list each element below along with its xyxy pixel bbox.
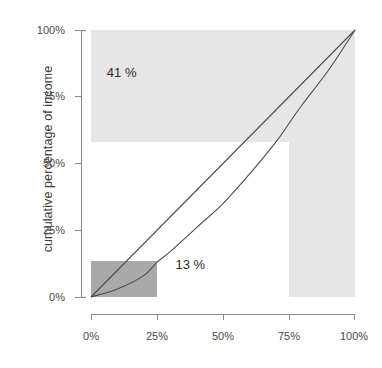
y-tick-50 xyxy=(75,163,81,164)
annotation-13-percent: 13 % xyxy=(175,257,205,272)
figure-title-sliver xyxy=(150,0,260,9)
y-tick-0 xyxy=(75,297,81,298)
x-tick-label-0: 0% xyxy=(61,330,121,342)
x-tick-50 xyxy=(223,314,224,320)
x-tick-100 xyxy=(354,314,355,320)
x-tick-0 xyxy=(91,314,92,320)
y-tick-label-100: 100% xyxy=(5,24,65,36)
y-tick-label-75: 75% xyxy=(5,90,65,102)
y-tick-25 xyxy=(75,230,81,231)
y-axis-top-cap xyxy=(81,30,86,31)
y-axis-spine xyxy=(81,30,82,297)
y-tick-label-25: 25% xyxy=(5,224,65,236)
y-axis-bottom-cap xyxy=(81,297,86,298)
x-tick-75 xyxy=(289,314,290,320)
y-tick-75 xyxy=(75,96,81,97)
annotation-41-percent: 41 % xyxy=(107,65,137,80)
lorenz-curve-figure: cumulative percentage of income 100% 75%… xyxy=(0,0,382,368)
x-tick-label-75: 75% xyxy=(259,330,319,342)
y-tick-100 xyxy=(75,30,81,31)
y-tick-label-50: 50% xyxy=(5,157,65,169)
x-tick-25 xyxy=(157,314,158,320)
x-tick-label-25: 25% xyxy=(127,330,187,342)
x-tick-label-50: 50% xyxy=(193,330,253,342)
x-tick-label-100: 100% xyxy=(324,330,382,342)
y-tick-label-0: 0% xyxy=(5,291,65,303)
plot-area: 41 % 13 % xyxy=(91,30,355,297)
